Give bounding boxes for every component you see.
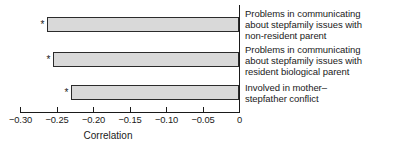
plot-area: * * * −0.30 −0.25 −0.20 −0.15 −0.10 −0.0… xyxy=(0,0,394,150)
bar-mother-stepfather-conflict xyxy=(71,85,239,100)
x-tick-3 xyxy=(130,107,131,112)
x-tick-label-3: −0.15 xyxy=(118,114,141,125)
zero-axis-line xyxy=(239,5,240,113)
x-tick-4 xyxy=(166,107,167,112)
bar-resident-biological-parent xyxy=(53,52,239,67)
x-tick-label-4: −0.10 xyxy=(155,114,178,125)
significance-star-bar-1: * xyxy=(41,20,46,30)
category-label-resident-biological-parent: Problems in communicating about stepfami… xyxy=(245,44,393,78)
x-tick-label-0: −0.30 xyxy=(9,114,32,125)
category-label-mother-stepfather-conflict: Involved in mother– stepfather conflict xyxy=(245,82,393,104)
category-label-non-resident-parent: Problems in communicating about stepfami… xyxy=(245,8,393,42)
x-tick-label-6: 0 xyxy=(237,114,242,125)
x-tick-label-1: −0.25 xyxy=(45,114,68,125)
x-tick-2 xyxy=(93,107,94,112)
x-tick-0 xyxy=(20,107,21,112)
x-tick-label-2: −0.20 xyxy=(82,114,105,125)
significance-star-bar-2: * xyxy=(47,55,52,65)
correlation-bar-chart: * * * −0.30 −0.25 −0.20 −0.15 −0.10 −0.0… xyxy=(0,0,394,150)
x-axis-title: Correlation xyxy=(84,130,133,142)
x-tick-5 xyxy=(203,107,204,112)
bar-non-resident-parent xyxy=(47,17,239,32)
x-tick-6 xyxy=(239,107,240,112)
significance-star-bar-3: * xyxy=(65,88,70,98)
x-tick-1 xyxy=(57,107,58,112)
x-tick-label-5: −0.05 xyxy=(191,114,214,125)
